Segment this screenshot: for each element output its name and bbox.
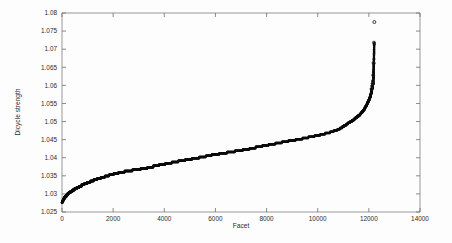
x-tick-label: 10000 [309,215,327,222]
y-tick-label: 1.075 [41,27,57,34]
y-tick-label: 1.055 [41,100,57,107]
chart-figure: 1.0251.031.0351.041.0451.051.0551.061.06… [0,0,452,243]
y-tick-label: 1.035 [41,172,57,179]
y-tick-label: 1.06 [45,82,58,89]
y-tick-label: 1.04 [45,154,58,161]
x-tick-label: 0 [60,215,64,222]
y-tick-label: 1.025 [41,208,57,215]
y-tick-label: 1.065 [41,64,57,71]
x-tick-label: 14000 [411,215,429,222]
x-tick-label: 2000 [106,215,121,222]
x-tick-label: 4000 [157,215,172,222]
y-tick-label: 1.07 [45,45,58,52]
x-tick-label: 6000 [208,215,223,222]
y-axis-title: Dicycle strength [14,88,22,135]
x-tick-label: 8000 [259,215,274,222]
dicycle-strength-scatter-plot: 1.0251.031.0351.041.0451.051.0551.061.06… [0,0,452,243]
x-axis-title: Facet [233,222,250,229]
y-tick-label: 1.05 [45,118,58,125]
y-tick-label: 1.045 [41,136,57,143]
y-tick-label: 1.03 [45,190,58,197]
figure-background [0,0,452,243]
y-tick-label: 1.08 [45,9,58,16]
x-tick-label: 12000 [360,215,378,222]
